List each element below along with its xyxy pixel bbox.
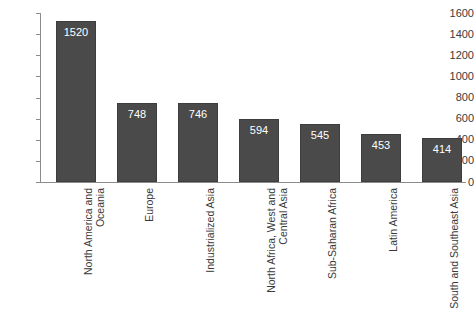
x-axis-line: [40, 182, 466, 183]
y-tick-mark: [36, 98, 40, 99]
category-label: North America and Oceania: [82, 188, 106, 320]
y-tick-mark: [36, 76, 40, 77]
y-tick-mark: [36, 34, 40, 35]
y-tick-label: 800: [439, 92, 474, 103]
y-tick-mark: [36, 13, 40, 14]
bar-value-label: 453: [362, 139, 400, 151]
bar-value-label: 414: [423, 143, 461, 155]
bar: 1520: [56, 21, 96, 182]
bar-value-label: 545: [301, 129, 339, 141]
bar: 748: [117, 103, 157, 182]
y-tick-label: 1400: [439, 29, 474, 40]
y-axis-line: [40, 13, 41, 182]
category-label: North Africa, West and Central Asia: [265, 188, 289, 320]
bar-chart: 16001400120010008006004002000 1520748746…: [0, 0, 474, 325]
y-tick-mark: [36, 55, 40, 56]
bar-value-label: 1520: [57, 26, 95, 38]
bar-value-label: 594: [240, 124, 278, 136]
bar: 453: [361, 134, 401, 182]
y-tick-label: 1600: [439, 8, 474, 19]
bar: 414: [422, 138, 462, 182]
y-tick-mark: [36, 182, 40, 183]
category-label: Industrialized Asia: [204, 188, 216, 320]
y-tick-label: 600: [439, 113, 474, 124]
category-label: Sub-Saharan Africa: [326, 188, 338, 320]
y-tick-label: 1200: [439, 50, 474, 61]
category-label: South and Southeast Asia: [448, 188, 460, 320]
bar: 594: [239, 119, 279, 182]
bar-value-label: 746: [179, 108, 217, 120]
bar-value-label: 748: [118, 108, 156, 120]
y-tick-mark: [36, 140, 40, 141]
bar: 746: [178, 103, 218, 182]
y-tick-label: 1000: [439, 71, 474, 82]
bar: 545: [300, 124, 340, 182]
category-label: Latin America: [387, 188, 399, 320]
category-label: Europe: [143, 188, 155, 320]
y-tick-mark: [36, 161, 40, 162]
y-tick-mark: [36, 119, 40, 120]
